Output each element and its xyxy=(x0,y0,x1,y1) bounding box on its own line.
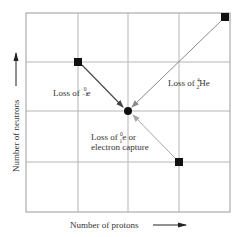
square-marker-alpha-parent xyxy=(221,13,229,21)
square-marker-beta-plus-parent xyxy=(175,158,183,166)
decay-diagram: Loss of −10e Loss of 42He Loss of 01e or… xyxy=(0,0,242,237)
label-beta-minus: Loss of −10e xyxy=(53,86,91,98)
y-axis-label: Number of neutrons xyxy=(11,99,21,172)
x-axis-label: Number of protons xyxy=(70,220,139,230)
arrow-beta-minus xyxy=(82,65,123,107)
square-marker-beta-minus-parent xyxy=(74,58,82,66)
label-alpha: Loss of 42He xyxy=(168,77,210,90)
circle-marker-daughter xyxy=(124,107,132,115)
transition-labels: Loss of −10e Loss of 42He Loss of 01e or… xyxy=(53,77,210,152)
arrow-alpha xyxy=(132,20,222,107)
label-beta-plus-line2: electron capture xyxy=(91,142,149,152)
